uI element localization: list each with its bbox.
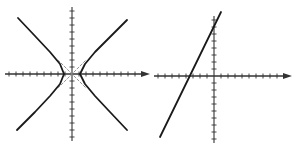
x-axis-arrow-icon xyxy=(141,71,150,77)
figure xyxy=(0,0,294,145)
hyperbola-right-branch xyxy=(80,20,127,130)
hyperbola-graph xyxy=(5,7,150,141)
linear-graph xyxy=(154,12,292,143)
graphs-canvas xyxy=(0,0,294,145)
x-axis-arrow-icon xyxy=(283,73,292,79)
